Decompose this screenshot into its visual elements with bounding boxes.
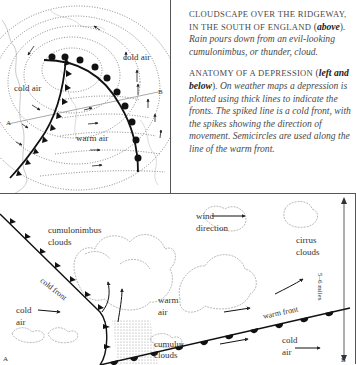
label-cirrus-clouds: cirrus clouds — [296, 234, 326, 258]
label-cold-air-top: cold air — [123, 52, 150, 62]
label-cumulonimbus-clouds: cumulonimbus clouds — [48, 224, 108, 248]
label-cumulus-clouds: cumulus clouds — [154, 339, 194, 361]
label-point-a: A — [3, 354, 8, 364]
caption-depression: ANATOMY OF A DEPRESSION (left and below)… — [189, 67, 354, 155]
label-cold-air-right: cold air — [282, 334, 308, 358]
weather-map-illustration — [0, 0, 171, 194]
label-point-b: B — [341, 355, 346, 365]
caption-cloudscape: CLOUDSCAPE OVER THE RIDGEWAY, IN THE SOU… — [189, 8, 354, 58]
label-wind-direction: wind direction — [196, 210, 246, 234]
label-cold-air-left: cold air — [16, 304, 42, 328]
label-cold-air-left: cold air — [14, 83, 41, 93]
depression-cross-section: cumulonimbus clouds cold front cold air … — [0, 193, 356, 364]
label-point-a: A — [6, 118, 11, 128]
depression-weather-map: cold air cold air warm air A B — [0, 0, 171, 194]
label-height-scale: 5–6 miles — [315, 272, 325, 301]
caption-block: CLOUDSCAPE OVER THE RIDGEWAY, IN THE SOU… — [189, 8, 354, 165]
label-point-b: B — [158, 87, 163, 97]
label-warm-air: warm air — [158, 294, 184, 318]
label-warm-air: warm air — [76, 133, 108, 143]
